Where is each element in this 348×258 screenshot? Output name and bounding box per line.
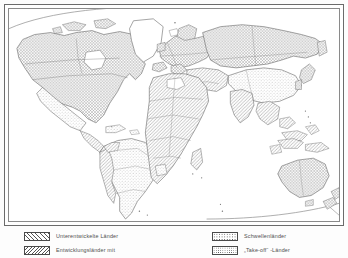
page-root: Weltkarte der Entwicklungsländer Unteren… xyxy=(0,0,348,258)
legend-column-right: Schwellenländer „Take-off“ -Länder xyxy=(212,230,290,258)
map-frame: Weltkarte der Entwicklungsländer xyxy=(4,4,344,226)
legend-item-entwicklungslaender[interactable]: Entwicklungsländer mit xyxy=(24,244,118,257)
legend-column-left: Unterentwickelte Länder Entwicklungsländ… xyxy=(24,230,118,258)
legend-label-takeoff: „Take-off“ -Länder xyxy=(244,246,290,255)
legend-swatch-coarse-dots-icon xyxy=(212,246,238,255)
legend-swatch-backward-hatch-icon xyxy=(24,246,50,255)
legend-label-unterentwickelte: Unterentwickelte Länder xyxy=(56,232,118,241)
map-frame-inner: Weltkarte der Entwicklungsländer xyxy=(8,8,340,222)
legend-label-schwellenlaender: Schwellenländer xyxy=(244,232,286,241)
legend-swatch-forward-hatch-icon xyxy=(24,232,50,241)
legend-item-schwellenlaender[interactable]: Schwellenländer xyxy=(212,230,290,243)
legend-item-unterentwickelte[interactable]: Unterentwickelte Länder xyxy=(24,230,118,243)
map-legend: Unterentwickelte Länder Entwicklungsländ… xyxy=(0,230,348,258)
world-map[interactable] xyxy=(9,9,339,221)
legend-item-takeoff[interactable]: „Take-off“ -Länder xyxy=(212,244,290,257)
legend-swatch-fine-dots-icon xyxy=(212,232,238,241)
legend-label-entwicklungslaender: Entwicklungsländer mit xyxy=(56,246,115,255)
